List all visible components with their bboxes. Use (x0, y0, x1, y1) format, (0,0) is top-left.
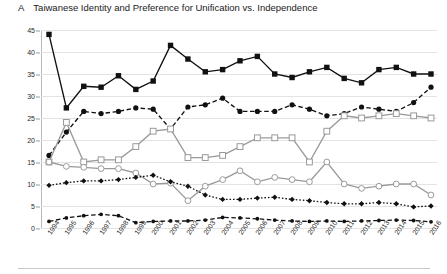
y-tick-label: 10 (9, 181, 35, 188)
y-tick-mark (36, 96, 40, 97)
y-tick-label: 15 (9, 159, 35, 166)
y-tick-mark (36, 228, 40, 229)
y-tick-mark (36, 206, 40, 207)
y-tick-label: 40 (9, 49, 35, 56)
y-tick-label: 25 (9, 115, 35, 122)
panel-heading: A Taiwanese Identity and Preference for … (18, 2, 317, 13)
y-tick-label: 0 (9, 225, 35, 232)
page-title: Taiwanese Identity and Preference for Un… (33, 2, 317, 13)
y-tick-mark (36, 184, 40, 185)
gridline (41, 184, 437, 185)
y-tick-mark (36, 162, 40, 163)
gridline (41, 206, 437, 207)
gridline (41, 162, 437, 163)
y-tick-mark (36, 74, 40, 75)
gridline (41, 140, 437, 141)
footer-rule (18, 268, 430, 269)
y-tick-label: 5 (9, 203, 35, 210)
y-tick-mark (36, 52, 40, 53)
gridline (41, 96, 437, 97)
chart-panel: A Taiwanese Identity and Preference for … (0, 0, 447, 274)
panel-letter: A (18, 2, 24, 13)
y-tick-mark (36, 118, 40, 119)
gridline (41, 118, 437, 119)
y-tick-mark (36, 140, 40, 141)
y-tick-label: 35 (9, 71, 35, 78)
gridline (41, 52, 437, 53)
y-tick-label: 45 (9, 27, 35, 34)
y-tick-label: 30 (9, 93, 35, 100)
y-tick-mark (36, 30, 40, 31)
gridline (41, 30, 437, 31)
gridline (41, 74, 437, 75)
y-tick-label: 20 (9, 137, 35, 144)
plot-area (41, 30, 437, 228)
